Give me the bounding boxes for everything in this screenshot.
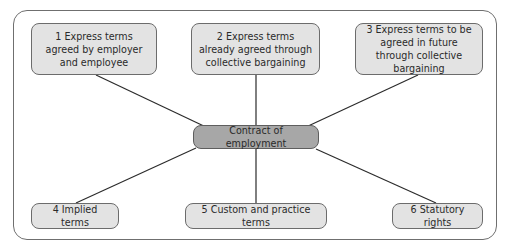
center-label: Contract of employment: [200, 124, 312, 150]
node-express-terms-collective-agreed: 2 Express terms already agreed through c…: [191, 23, 320, 75]
node-label: 3 Express terms to be agreed in future t…: [362, 23, 476, 75]
node-label: 5 Custom and practice terms: [192, 203, 320, 229]
connector-6: [316, 149, 436, 203]
node-contract-of-employment: Contract of employment: [193, 125, 319, 149]
node-implied-terms: 4 Implied terms: [31, 203, 119, 229]
node-label: 2 Express terms already agreed through c…: [198, 30, 313, 69]
connector-1: [96, 75, 208, 128]
node-label: 6 Statutory rights: [399, 203, 476, 229]
connector-3: [306, 75, 418, 127]
node-statutory-rights: 6 Statutory rights: [392, 203, 483, 229]
connector-4: [76, 148, 196, 203]
node-label: 4 Implied terms: [38, 203, 112, 229]
node-express-terms-future-collective: 3 Express terms to be agreed in future t…: [355, 23, 483, 75]
node-express-terms-employer-employee: 1 Express terms agreed by employer and e…: [31, 23, 157, 75]
node-custom-practice-terms: 5 Custom and practice terms: [185, 203, 327, 229]
node-label: 1 Express terms agreed by employer and e…: [38, 30, 150, 69]
